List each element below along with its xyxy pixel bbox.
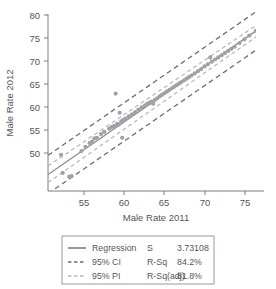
x-tick-label: 75 [240,197,251,208]
data-point [61,171,65,175]
legend-stat-name: S [147,243,153,253]
data-point [237,41,241,45]
legend-stat-value: 84.2% [177,257,202,267]
scatter-points [59,29,258,179]
data-point [133,110,137,114]
y-tick-label: 50 [29,148,40,159]
data-point [83,145,87,149]
y-tick-label: 65 [29,79,40,90]
data-point [206,62,210,66]
data-point [151,102,155,106]
legend-label: Regression [92,243,137,253]
y-tick-label: 55 [29,125,40,136]
legend-label: 95% PI [92,271,120,281]
x-axis-ticks [84,191,245,195]
x-tick-label: 65 [159,197,170,208]
x-tick-label: 70 [200,197,211,208]
data-point [247,33,251,37]
y-axis-ticks [44,15,48,153]
fitted-line-plot: 80 75 70 65 60 55 50 55 60 65 70 75 Male… [0,0,276,289]
y-tick-label: 80 [29,10,40,21]
x-tick-label: 60 [119,197,130,208]
data-point [242,37,246,41]
data-point [79,149,83,153]
fit-line [48,31,264,182]
data-point [199,67,203,71]
plot-area [48,6,264,193]
fit-line [48,6,264,155]
data-point [114,91,118,95]
y-axis-tick-labels: 80 75 70 65 60 55 50 [29,10,40,159]
y-axis-title: Male Rate 2012 [4,69,15,136]
data-point [118,111,122,115]
data-point [120,136,124,140]
legend-row-pi: 95% PI R-Sq(adj) 81.8% [68,271,202,281]
data-point [208,55,212,59]
legend-row-ci: 95% CI R-Sq 84.2% [68,257,202,267]
legend-stat-value: 3.73108 [177,243,209,253]
fit-line [48,45,264,194]
data-point [59,153,63,157]
x-axis-title: Male Rate 2011 [123,212,189,223]
data-point [233,45,237,49]
y-tick-label: 70 [29,56,40,67]
y-tick-label: 75 [29,33,40,44]
legend-row-regression: Regression S 3.73108 [68,243,209,253]
data-point [102,130,106,134]
legend-label: 95% CI [92,257,121,267]
legend-stat-name: R-Sq [147,257,167,267]
chart-canvas: 80 75 70 65 60 55 50 55 60 65 70 75 Male… [0,0,276,289]
data-point [254,29,258,33]
fit-line [48,20,264,166]
data-point [70,174,74,178]
x-axis-tick-labels: 55 60 65 70 75 [79,197,251,208]
legend-stat-value: 81.8% [177,271,202,281]
x-tick-label: 55 [79,197,90,208]
y-tick-label: 60 [29,102,40,113]
data-point [95,136,99,140]
